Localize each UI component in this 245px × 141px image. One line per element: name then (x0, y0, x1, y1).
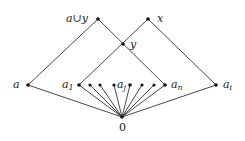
atom-node (98, 83, 101, 86)
node-y (121, 42, 125, 46)
atom-node (88, 83, 91, 86)
label-zero: 0 (119, 121, 126, 134)
node-a_j (128, 83, 132, 87)
edge-a-zero (28, 85, 122, 117)
node-zero (120, 115, 124, 119)
atom-node (140, 83, 143, 86)
label-a: a (13, 78, 20, 91)
edge-a_union_y-a (28, 19, 98, 85)
atom-node (152, 83, 155, 86)
label-x: x (157, 12, 164, 25)
label-ai: ai (223, 78, 233, 92)
edge-atom-4-zero (122, 85, 154, 117)
node-a_i (214, 83, 218, 87)
edge-a_i-zero (122, 85, 216, 117)
label-y: y (129, 38, 137, 51)
edge-x-a_i (148, 19, 216, 85)
node-x (146, 17, 150, 21)
label-aj: aj (117, 78, 127, 92)
node-a_union_y (96, 17, 100, 21)
label-a-union-y: a∪y (66, 12, 89, 25)
edge-x-a1 (79, 19, 148, 85)
node-a_n (163, 83, 167, 87)
edges (28, 19, 216, 117)
label-an: an (171, 78, 183, 92)
atom-node (112, 83, 115, 86)
node-a1 (77, 83, 81, 87)
edge-a_union_y-a_n (98, 19, 165, 85)
node-a (26, 83, 30, 87)
nodes (26, 17, 218, 119)
lattice-diagram: a∪y x y a a1 aj an ai 0 (0, 0, 245, 141)
label-a1: a1 (62, 78, 74, 92)
